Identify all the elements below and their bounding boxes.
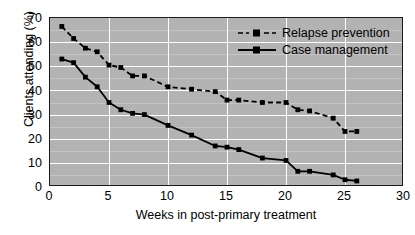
x-tick-0: 0 (34, 190, 64, 203)
data-point-marker (354, 129, 359, 134)
data-point-marker (95, 49, 100, 54)
legend-label-relapse-prevention: Relapse prevention (282, 26, 390, 40)
data-point-marker (213, 89, 218, 94)
data-point-marker (95, 84, 100, 89)
data-point-marker (59, 57, 64, 62)
x-tick-25: 25 (329, 190, 359, 203)
data-point-marker (307, 169, 312, 174)
data-point-marker (225, 98, 230, 103)
data-point-marker (295, 107, 300, 112)
y-axis-title: Clients attending (%) (22, 0, 36, 149)
x-tick-5: 5 (93, 190, 123, 203)
data-point-marker (142, 74, 147, 79)
legend-swatch-solid (237, 44, 277, 56)
data-point-marker (107, 63, 112, 68)
x-tick-10: 10 (152, 190, 182, 203)
data-point-marker (213, 144, 218, 149)
chart-legend: Relapse prevention Case management (237, 24, 390, 58)
legend-item-relapse-prevention: Relapse prevention (237, 24, 390, 41)
data-point-marker (284, 158, 289, 163)
data-point-marker (236, 98, 241, 103)
data-point-marker (71, 60, 76, 65)
data-point-marker (225, 145, 230, 150)
x-tick-20: 20 (270, 190, 300, 203)
data-point-marker (260, 100, 265, 105)
series-line (62, 59, 357, 181)
x-tick-15: 15 (211, 190, 241, 203)
legend-item-case-management: Case management (237, 41, 390, 58)
data-point-marker (236, 147, 241, 152)
legend-swatch-dashed (237, 27, 277, 39)
data-point-marker (295, 169, 300, 174)
data-point-marker (284, 100, 289, 105)
data-point-marker (142, 112, 147, 117)
x-axis-title: Weeks in post-primary treatment (49, 208, 403, 222)
data-point-marker (331, 116, 336, 121)
data-point-marker (130, 74, 135, 79)
data-point-marker (331, 173, 336, 178)
data-point-marker (107, 100, 112, 105)
data-point-marker (83, 75, 88, 80)
data-point-marker (71, 36, 76, 41)
data-point-marker (343, 177, 348, 182)
data-point-marker (166, 123, 171, 128)
data-point-marker (260, 156, 265, 161)
data-point-marker (307, 109, 312, 114)
legend-label-case-management: Case management (282, 43, 388, 57)
data-point-marker (83, 46, 88, 51)
data-point-marker (354, 179, 359, 184)
data-point-marker (166, 84, 171, 89)
data-point-marker (118, 65, 123, 70)
x-tick-30: 30 (388, 190, 415, 203)
series-case-management (59, 57, 359, 184)
data-point-marker (343, 129, 348, 134)
data-point-marker (130, 111, 135, 116)
data-point-marker (189, 87, 194, 92)
data-point-marker (59, 24, 64, 29)
data-point-marker (118, 107, 123, 112)
data-point-marker (189, 133, 194, 138)
